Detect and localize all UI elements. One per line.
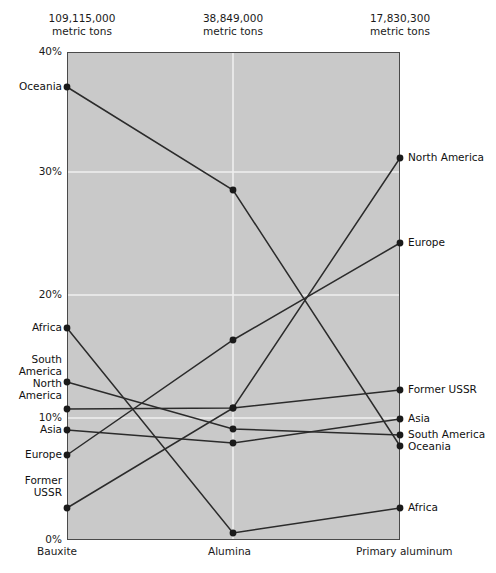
- series-label-right-former-ussr: Former USSR: [408, 384, 477, 396]
- series-label-right-europe: Europe: [408, 237, 445, 249]
- chart-svg: [0, 0, 496, 573]
- chart-root: 109,115,000 metric tons 38,849,000 metri…: [0, 0, 496, 573]
- series-label-left-europe: Europe: [0, 449, 62, 461]
- series-label-right-asia: Asia: [408, 413, 430, 425]
- series-label-left-oceania: Oceania: [0, 81, 62, 93]
- series-label-right-africa: Africa: [408, 502, 438, 514]
- series-label-right-north-america: North America: [408, 152, 484, 164]
- series-label-left-asia: Asia: [0, 424, 62, 436]
- series-label-left-africa: Africa: [0, 322, 62, 334]
- series-label-right-oceania: Oceania: [408, 441, 451, 453]
- series-label-left-former-ussr: Former USSR: [0, 475, 62, 498]
- series-label-left-south-america: South America: [0, 354, 62, 377]
- gridlines: [68, 53, 399, 539]
- series-label-right-south-america: South America: [408, 429, 485, 441]
- series-label-left-north-america: North America: [0, 378, 62, 401]
